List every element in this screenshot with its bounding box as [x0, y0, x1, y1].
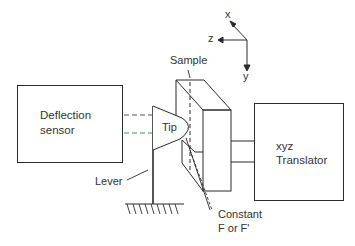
translator-label-2: Translator — [276, 154, 327, 167]
axis-x-label: x — [225, 8, 231, 21]
deflection-sensor-label-2: sensor — [40, 124, 75, 137]
constant-label-2: F or F' — [218, 222, 249, 235]
lever-pointer — [127, 170, 148, 180]
deflection-sensor-label-1: Deflection — [40, 109, 91, 122]
tip-label: Tip — [162, 121, 177, 134]
ground-hatch — [127, 204, 178, 214]
constant-pointer-1 — [186, 138, 210, 210]
sample-label: Sample — [170, 54, 207, 67]
translator-label-1: xyz — [276, 140, 293, 153]
lever-label: Lever — [95, 175, 123, 188]
constant-label-1: Constant — [218, 208, 262, 221]
axis-z-label: z — [208, 32, 214, 45]
axis-y-label: y — [243, 70, 249, 83]
translator-box — [255, 104, 344, 201]
axes — [218, 21, 250, 71]
sample-pointer — [188, 70, 190, 78]
diagram-canvas — [0, 0, 355, 246]
